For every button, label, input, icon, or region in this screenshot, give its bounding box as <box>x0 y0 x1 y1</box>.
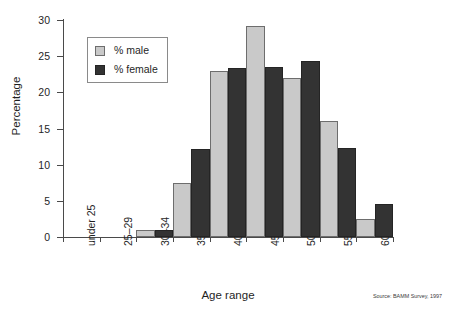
bar-male <box>320 121 338 237</box>
bar-female <box>191 149 209 237</box>
bar-male <box>173 183 191 237</box>
bar-female <box>155 230 173 237</box>
y-axis-title: Percentage <box>10 46 22 166</box>
x-tick-mark <box>246 237 247 242</box>
legend-swatch-male-icon <box>95 46 105 56</box>
x-tick-mark <box>210 237 211 242</box>
legend-label-female: % female <box>114 64 158 75</box>
bar-female <box>265 67 283 237</box>
x-tick-mark <box>283 237 284 242</box>
bar-chart-figure: 051015202530 under 2525–2930–3435–3940–4… <box>0 0 450 322</box>
y-tick-label: 30 <box>14 15 50 25</box>
bar-male <box>246 26 264 237</box>
x-tick-mark <box>63 237 64 242</box>
chart-legend: % male % female <box>87 37 168 83</box>
y-tick-label: 0 <box>14 232 50 242</box>
legend-label-male: % male <box>114 45 149 56</box>
x-tick-mark <box>356 237 357 242</box>
x-tick-mark <box>320 237 321 242</box>
bar-male <box>210 71 228 237</box>
x-tick-mark <box>100 237 101 242</box>
bar-female <box>338 148 356 237</box>
legend-swatch-female-icon <box>95 65 105 75</box>
bar-male <box>283 78 301 237</box>
x-tick-mark <box>173 237 174 242</box>
y-tick-label: 5 <box>14 196 50 206</box>
bar-female <box>375 204 393 237</box>
source-note: Source: BAMM Survey, 1997 <box>373 293 442 300</box>
bar-female <box>228 68 246 237</box>
bar-male <box>136 230 154 237</box>
legend-item-male: % male <box>95 43 158 58</box>
bar-male <box>356 219 374 237</box>
x-tick-mark <box>136 237 137 242</box>
legend-item-female: % female <box>95 62 158 77</box>
x-axis-title: Age range <box>63 289 393 301</box>
x-tick-mark <box>393 237 394 242</box>
bar-female <box>301 61 319 237</box>
